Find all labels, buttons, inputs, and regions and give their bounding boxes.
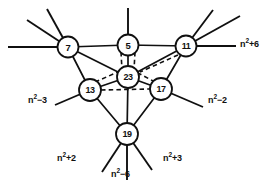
node-23[interactable]: 23 bbox=[117, 66, 139, 88]
label-n2-plus-2: n2+2 bbox=[57, 154, 76, 163]
node-13-label: 13 bbox=[86, 85, 95, 95]
label-n2-plus-2-suffix: +2 bbox=[66, 153, 76, 163]
node-17[interactable]: 17 bbox=[150, 78, 172, 100]
edge-dashed-13-23 bbox=[95, 72, 118, 82]
node-17-label: 17 bbox=[157, 84, 166, 94]
label-n2-plus-6-suffix: +6 bbox=[249, 39, 259, 49]
node-7-label: 7 bbox=[66, 42, 71, 53]
node-5[interactable]: 5 bbox=[118, 35, 139, 56]
node-19[interactable]: 19 bbox=[116, 123, 138, 145]
node-11[interactable]: 11 bbox=[176, 36, 197, 57]
graph-diagram: 7 5 11 23 13 17 bbox=[0, 0, 279, 189]
node-23-label: 23 bbox=[124, 72, 133, 82]
label-n2-minus-3-suffix: −3 bbox=[37, 95, 47, 105]
node-11-label: 11 bbox=[182, 41, 191, 51]
node-7[interactable]: 7 bbox=[58, 37, 79, 58]
node-13[interactable]: 13 bbox=[79, 79, 101, 101]
label-n2-minus-3: n2−3 bbox=[28, 96, 47, 105]
edge-dashed-13-17 bbox=[101, 89, 150, 90]
node-19-label: 19 bbox=[123, 129, 132, 139]
label-n2-minus-6-suffix: −6 bbox=[120, 169, 130, 179]
label-n2-plus-3-suffix: +3 bbox=[172, 153, 182, 163]
label-n2-plus-3: n2+3 bbox=[163, 154, 182, 163]
label-n2-plus-6: n2+6 bbox=[240, 40, 259, 49]
edge-dashed-17-23 bbox=[138, 73, 155, 82]
label-n2-minus-6: n2−6 bbox=[111, 170, 130, 179]
ray-group bbox=[8, 8, 240, 180]
label-n2-minus-2: n2−2 bbox=[208, 96, 227, 105]
label-n2-minus-2-suffix: −2 bbox=[217, 95, 227, 105]
